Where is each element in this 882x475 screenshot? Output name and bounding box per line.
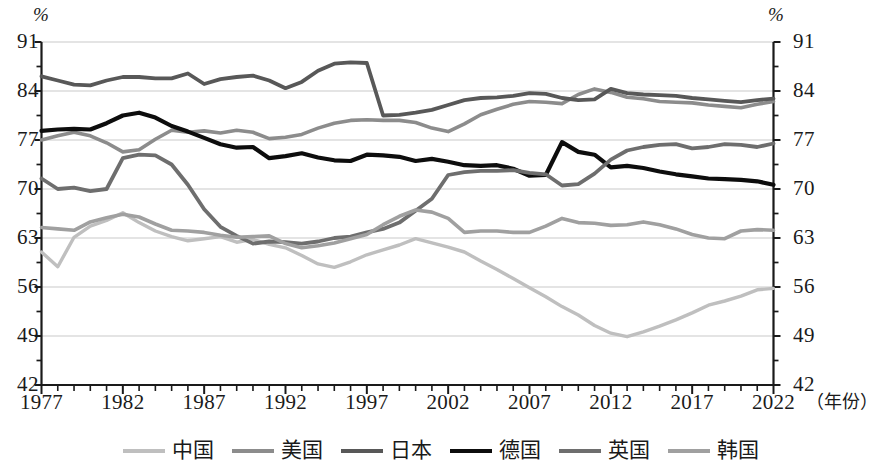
series-line — [42, 213, 774, 337]
employment-rate-line-chart: % % 42424949565663637070777784849191 197… — [0, 0, 882, 475]
legend-label: 德国 — [499, 440, 541, 461]
legend-label: 美国 — [281, 440, 323, 461]
legend-item-5[interactable]: 英国 — [559, 440, 650, 461]
legend-line-swatch — [559, 449, 601, 453]
x-axis-label: 1977 — [20, 392, 63, 413]
legend-line-swatch — [668, 449, 710, 453]
y-axis-label-left: 56 — [17, 276, 39, 297]
series-line — [42, 113, 774, 185]
chart-legend: 中国美国日本德国英国韩国 — [0, 440, 882, 461]
x-axis-label: 2002 — [427, 392, 470, 413]
legend-item-4[interactable]: 德国 — [450, 440, 541, 461]
x-axis-label: 1997 — [345, 392, 388, 413]
y-axis-label-left: 84 — [17, 80, 39, 101]
legend-label: 日本 — [390, 440, 432, 461]
legend-item-3[interactable]: 日本 — [341, 440, 432, 461]
legend-line-swatch — [232, 449, 274, 453]
y-axis-label-right: 49 — [793, 325, 815, 346]
y-axis-label-left: 63 — [17, 227, 39, 248]
y-axis-label-right: 84 — [793, 80, 815, 101]
legend-label: 中国 — [172, 440, 214, 461]
legend-line-swatch — [123, 449, 165, 453]
y-axis-label-right: 56 — [793, 276, 815, 297]
x-axis-label: 1987 — [183, 392, 226, 413]
x-axis-label: 1982 — [101, 392, 144, 413]
x-axis-label: 2017 — [671, 392, 714, 413]
legend-item-2[interactable]: 美国 — [232, 440, 323, 461]
y-axis-label-left: 70 — [17, 178, 39, 199]
legend-line-swatch — [341, 449, 383, 453]
y-axis-label-right: 70 — [793, 178, 815, 199]
series-lines — [42, 62, 774, 336]
y-axis-label-right: 91 — [793, 31, 815, 52]
legend-label: 韩国 — [717, 440, 759, 461]
legend-line-swatch — [450, 449, 492, 453]
legend-item-1[interactable]: 中国 — [123, 440, 214, 461]
x-axis-label: 2012 — [589, 392, 632, 413]
x-axis-label: 2007 — [508, 392, 551, 413]
x-axis-label: 2022 — [752, 392, 795, 413]
legend-item-6[interactable]: 韩国 — [668, 440, 759, 461]
x-axis-caption: （年份） — [806, 393, 878, 411]
y-axis-label-left: 77 — [17, 129, 39, 150]
y-axis-label-right: 63 — [793, 227, 815, 248]
legend-label: 英国 — [608, 440, 650, 461]
series-line — [42, 62, 774, 115]
y-axis-label-left: 49 — [17, 325, 39, 346]
y-axis-label-right: 77 — [793, 129, 815, 150]
series-line — [42, 89, 774, 152]
x-axis-label: 1992 — [264, 392, 307, 413]
y-axis-label-left: 91 — [17, 31, 39, 52]
gridlines — [42, 42, 774, 336]
